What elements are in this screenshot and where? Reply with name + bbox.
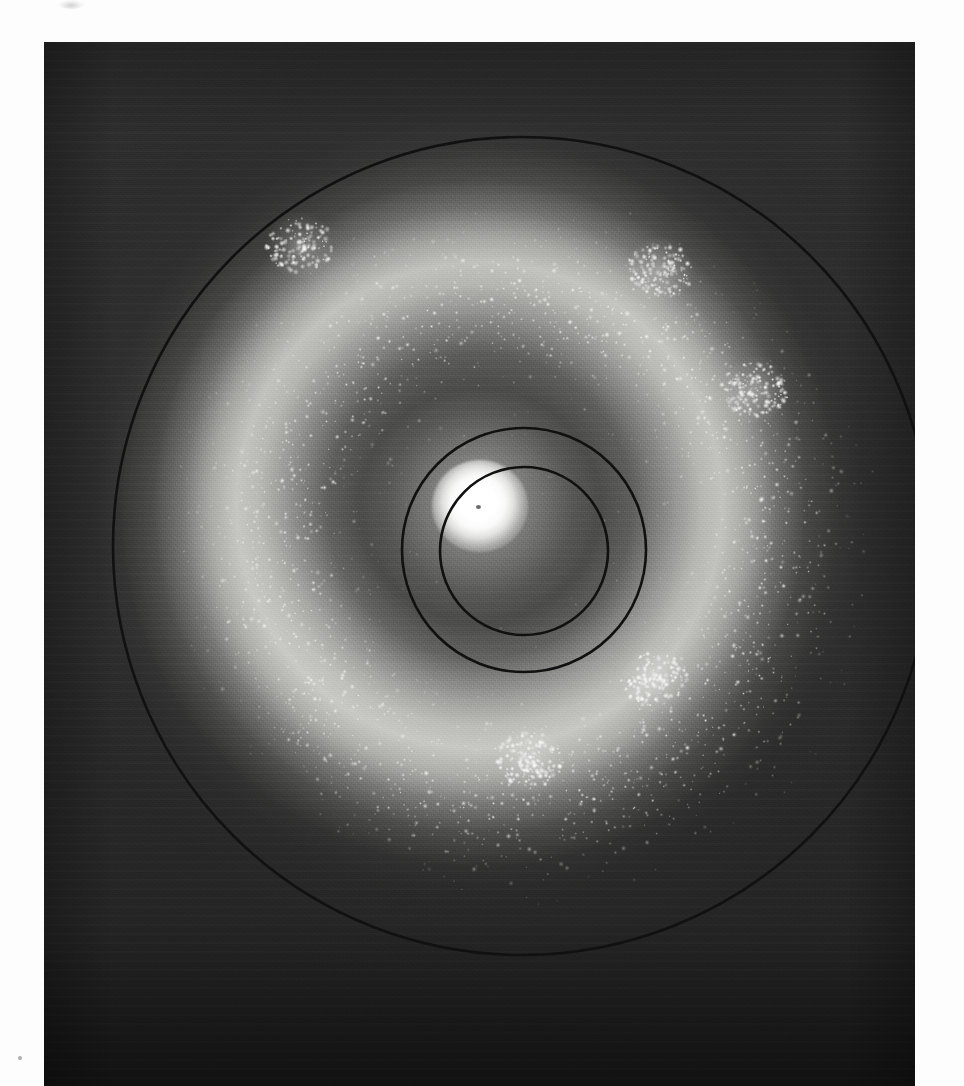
outer-aperture-circle <box>113 137 915 955</box>
corner-smudge-mark <box>58 0 84 9</box>
corner-dot-mark <box>18 1056 22 1060</box>
photographic-plate <box>44 42 915 1086</box>
figure-page <box>0 0 964 1086</box>
inner-aperture-circle <box>440 467 608 635</box>
overlay-circles <box>44 42 915 1086</box>
